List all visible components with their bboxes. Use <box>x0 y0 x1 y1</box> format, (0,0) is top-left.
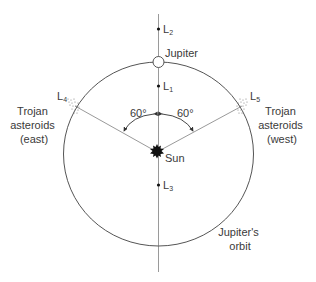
line-to-l5 <box>157 106 242 152</box>
sun-icon <box>150 144 164 159</box>
l5-label: L5 <box>250 90 260 103</box>
trojans-west-label: Trojan asteroids (west) <box>258 105 306 145</box>
l2-point <box>157 27 160 30</box>
l1-point <box>157 84 160 87</box>
jupiter-planet <box>153 57 164 68</box>
l3-point <box>157 183 160 186</box>
lagrange-diagram: L2 Jupiter L1 L3 L4 L5 60° 60° Sun Troja… <box>0 0 316 282</box>
l3-label: L3 <box>163 179 173 192</box>
sun-label: Sun <box>165 152 185 164</box>
l1-label: L1 <box>163 80 173 93</box>
orbit-label: Jupiter's orbit <box>218 226 262 252</box>
l2-label: L2 <box>163 23 173 36</box>
angle-label-left: 60° <box>130 107 147 119</box>
l4-label: L4 <box>57 90 67 103</box>
angle-label-right: 60° <box>177 107 194 119</box>
jupiter-label: Jupiter <box>165 47 198 59</box>
trojans-east-label: Trojan asteroids (east) <box>10 105 58 145</box>
